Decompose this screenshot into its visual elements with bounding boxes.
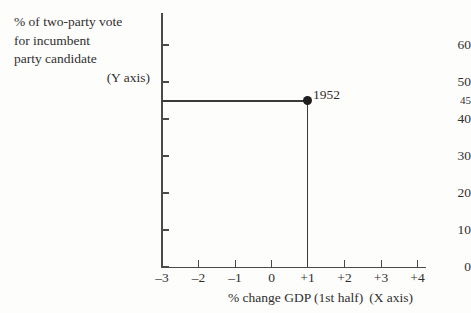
x-tick-label-pos2: +2 — [325, 271, 365, 285]
x-tick-label-pos1: +1 — [288, 271, 328, 285]
y-tick-label-60: 60 — [319, 38, 471, 52]
data-point-1952[interactable] — [303, 96, 312, 105]
horizontal-guide-line — [162, 100, 308, 102]
x-axis-caption-main: % change GDP (1st half) — [228, 290, 363, 305]
x-tick-label-pos4: +4 — [398, 271, 438, 285]
x-tick-mark-pos4 — [417, 260, 418, 268]
y-tick-mark-30 — [162, 155, 169, 156]
x-tick-label-pos3: +3 — [361, 271, 401, 285]
x-axis-caption-suffix: (X axis) — [369, 290, 413, 305]
x-tick-label-neg3: –3 — [142, 271, 182, 285]
y-tick-mark-50 — [162, 81, 169, 82]
x-tick-mark-neg2 — [198, 260, 199, 268]
x-tick-mark-neg3 — [162, 260, 163, 268]
y-tick-label-40: 40 — [319, 112, 471, 126]
data-point-label-1952: 1952 — [313, 88, 340, 102]
y-tick-mark-0 — [162, 266, 169, 267]
x-tick-mark-neg1 — [235, 260, 236, 268]
x-tick-label-0: 0 — [252, 271, 292, 285]
x-tick-label-neg1: –1 — [215, 271, 255, 285]
y-tick-label-30: 30 — [319, 149, 471, 163]
chart-figure: % of two-party vote for incumbent party … — [0, 0, 471, 313]
x-axis-caption: % change GDP (1st half)(X axis) — [228, 290, 413, 305]
y-tick-label-10: 10 — [319, 223, 471, 237]
y-tick-mark-10 — [162, 229, 169, 230]
y-tick-mark-20 — [162, 192, 169, 193]
y-tick-mark-40 — [162, 118, 169, 119]
x-tick-mark-0 — [271, 260, 272, 268]
y-tick-label-20: 20 — [319, 186, 471, 200]
vertical-guide-line — [307, 100, 309, 267]
y-tick-mark-60 — [162, 44, 169, 45]
x-tick-mark-pos3 — [381, 260, 382, 268]
y-tick-label-50: 50 — [319, 75, 471, 89]
plot-area: 0 10 20 30 40 45 50 60 –3 –2 –1 0 +1 +2 … — [0, 0, 471, 313]
x-tick-mark-pos2 — [344, 260, 345, 268]
y-tick-label-45: 45 — [319, 95, 471, 106]
x-tick-label-neg2: –2 — [179, 271, 219, 285]
